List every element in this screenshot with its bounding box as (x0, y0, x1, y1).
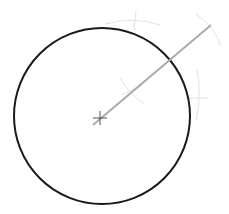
construction-arc (196, 14, 221, 46)
construction-diagram (0, 0, 229, 214)
construction-arc (196, 70, 199, 120)
construction-arc (105, 20, 160, 25)
radial-line (93, 25, 211, 125)
circle (14, 28, 190, 204)
